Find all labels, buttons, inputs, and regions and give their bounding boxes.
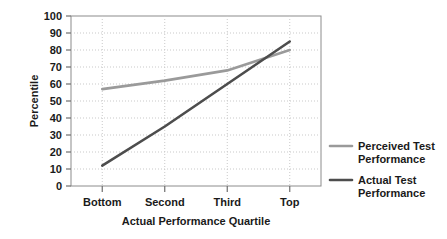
x-tick-label: Bottom [83, 196, 122, 208]
legend-label-line2: Performance [358, 153, 425, 165]
y-tick-label: 30 [50, 129, 62, 141]
y-tick-label: 0 [56, 180, 62, 192]
y-tick-label: 90 [50, 27, 62, 39]
y-axis-title: Percentile [28, 75, 40, 128]
chart-container: 0102030405060708090100 BottomSecondThird… [0, 0, 447, 239]
y-tick-label: 100 [44, 10, 62, 22]
x-axis-title: Actual Performance Quartile [122, 215, 271, 227]
y-tick-label: 40 [50, 112, 62, 124]
legend-label-line2: Performance [358, 187, 425, 199]
y-tick-label: 60 [50, 78, 62, 90]
y-tick-label: 20 [50, 146, 62, 158]
y-tick-label: 80 [50, 44, 62, 56]
x-tick-label: Top [280, 196, 300, 208]
legend-label-line1: Perceived Test [358, 140, 435, 152]
x-tick-label: Second [145, 196, 185, 208]
y-tick-label: 10 [50, 163, 62, 175]
y-tick-label: 50 [50, 95, 62, 107]
line-chart: 0102030405060708090100 BottomSecondThird… [0, 0, 447, 239]
y-tick-label: 70 [50, 61, 62, 73]
legend-label-line1: Actual Test [358, 174, 417, 186]
x-tick-label: Third [214, 196, 242, 208]
